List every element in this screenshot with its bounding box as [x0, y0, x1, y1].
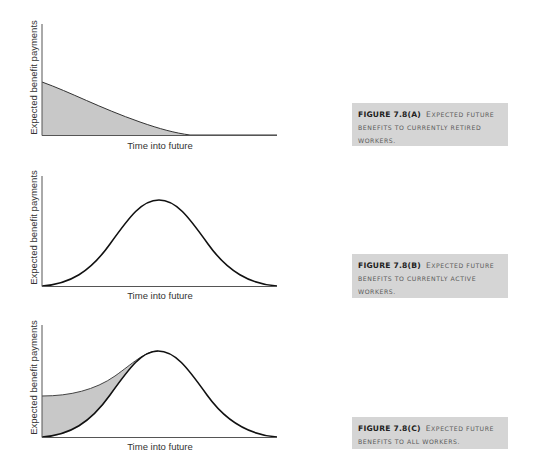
- y-axis-label: Expected benefit payments: [28, 18, 39, 138]
- figure-caption-c: FIGURE 7.8(C) Expected future benefits t…: [352, 417, 508, 449]
- x-axis-label: Time into future: [80, 290, 240, 301]
- caption-figure-number: FIGURE 7.8(C): [358, 424, 421, 433]
- y-axis-label: Expected benefit payments: [28, 318, 39, 438]
- retired-benefits-band: [42, 351, 158, 437]
- caption-figure-number: FIGURE 7.8(B): [358, 261, 421, 270]
- chart-a-plot: [0, 0, 300, 160]
- y-axis-label: Expected benefit payments: [28, 168, 39, 288]
- caption-figure-number: FIGURE 7.8(A): [358, 110, 421, 119]
- retired-benefits-area: [42, 82, 190, 135]
- chart-panel-a: Expected benefit payments Time into futu…: [0, 0, 300, 160]
- chart-panel-c: Expected benefit payments Time into futu…: [0, 310, 300, 473]
- chart-panel-b: Expected benefit payments Time into futu…: [0, 160, 300, 310]
- chart-b-plot: [0, 160, 300, 310]
- x-axis-label: Time into future: [80, 140, 240, 151]
- figure-caption-b: FIGURE 7.8(B) Expected future benefits t…: [352, 254, 508, 298]
- figure-caption-a: FIGURE 7.8(A) Expected future benefits t…: [352, 103, 508, 146]
- active-benefits-curve: [42, 200, 277, 286]
- x-axis-label: Time into future: [80, 441, 240, 452]
